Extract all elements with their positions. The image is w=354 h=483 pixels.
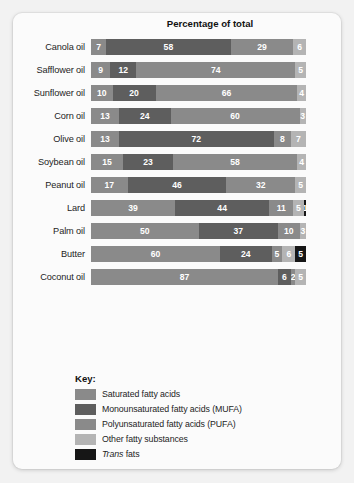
bar-row-label: Lard — [13, 203, 91, 213]
bar-segment: 13 — [91, 131, 119, 147]
bar-row: Soybean oil1523584 — [13, 154, 341, 170]
bar-row-label: Peanut oil — [13, 180, 91, 190]
legend-items: Saturated fatty acidsMonounsaturated fat… — [75, 388, 325, 460]
bar-track: 6024565 — [91, 246, 306, 262]
bar-track: 1324603 — [91, 108, 306, 124]
bar-row-label: Safflower oil — [13, 65, 91, 75]
bar-segment: 72 — [119, 131, 274, 147]
bar-segment: 4 — [297, 154, 306, 170]
bar-segment: 87 — [91, 269, 278, 285]
bar-segment: 74 — [136, 62, 295, 78]
bar-segment: 60 — [91, 246, 220, 262]
bar-track: 87625 — [91, 269, 306, 285]
bar-track: 137287 — [91, 131, 306, 147]
legend-swatch — [75, 404, 96, 415]
legend-item-label: Trans fats — [102, 449, 139, 459]
bar-segment: 15 — [91, 154, 123, 170]
bar-segment: 44 — [175, 200, 270, 216]
bar-row-label: Coconut oil — [13, 272, 91, 282]
bar-row-label: Corn oil — [13, 111, 91, 121]
legend-item: Monounsaturated fatty acids (MUFA) — [75, 403, 325, 415]
bar-segment: 9 — [91, 62, 110, 78]
legend-swatch — [75, 389, 96, 400]
bar-segment: 5 — [272, 246, 283, 262]
bar-segment: 66 — [156, 85, 298, 101]
legend-title: Key: — [75, 373, 325, 384]
bar-segment: 5 — [293, 200, 304, 216]
bar-segment: 37 — [199, 223, 279, 239]
bar-segment: 5 — [295, 62, 306, 78]
bar-segment: 12 — [110, 62, 136, 78]
bar-segment: 58 — [106, 39, 231, 55]
bar-row: Sunflower oil1020664 — [13, 85, 341, 101]
bar-row: Canola oil758296 — [13, 39, 341, 55]
bar-row: Butter6024565 — [13, 246, 341, 262]
legend-item: Other fatty substances — [75, 433, 325, 445]
chart-legend: Key: Saturated fatty acidsMonounsaturate… — [75, 373, 325, 463]
bar-row: Olive oil137287 — [13, 131, 341, 147]
chart-card: Canola oil758296Safflower oil912745Sunfl… — [13, 13, 341, 469]
bar-row: Palm oil5037103 — [13, 223, 341, 239]
bar-segment: 29 — [231, 39, 293, 55]
bar-segment: 5 — [295, 246, 306, 262]
bar-segment: 60 — [171, 108, 300, 124]
bar-segment: 13 — [91, 108, 119, 124]
bar-segment: 24 — [119, 108, 171, 124]
bar-track: 1523584 — [91, 154, 306, 170]
bar-segment: 3 — [300, 108, 306, 124]
legend-item: Polyunsaturated fatty acids (PUFA) — [75, 418, 325, 430]
bar-row-label: Butter — [13, 249, 91, 259]
bar-row: Safflower oil912745 — [13, 62, 341, 78]
bar-row-label: Canola oil — [13, 42, 91, 52]
bar-segment: 39 — [91, 200, 175, 216]
bar-track: 5037103 — [91, 223, 306, 239]
bar-row-label: Soybean oil — [13, 157, 91, 167]
stacked-bar-chart: Canola oil758296Safflower oil912745Sunfl… — [13, 39, 341, 292]
bar-segment: 7 — [91, 39, 106, 55]
bar-segment: 5 — [295, 177, 306, 193]
bar-row: Corn oil1324603 — [13, 108, 341, 124]
bar-row: Coconut oil87625 — [13, 269, 341, 285]
bar-track: 758296 — [91, 39, 306, 55]
bar-segment: 11 — [269, 200, 293, 216]
bar-track: 1020664 — [91, 85, 306, 101]
bar-row-label: Palm oil — [13, 226, 91, 236]
legend-swatch — [75, 419, 96, 430]
bar-segment: 10 — [278, 223, 300, 239]
bar-segment: 3 — [300, 223, 306, 239]
legend-item-label: Polyunsaturated fatty acids (PUFA) — [102, 419, 236, 429]
bar-segment: 6 — [282, 246, 295, 262]
bar-segment: 4 — [297, 85, 306, 101]
x-axis-label: Percentage of total — [13, 18, 341, 29]
bar-row-label: Sunflower oil — [13, 88, 91, 98]
bar-segment: 6 — [278, 269, 291, 285]
bar-row: Peanut oil1746325 — [13, 177, 341, 193]
legend-item-label: Monounsaturated fatty acids (MUFA) — [102, 404, 242, 414]
bar-segment: 17 — [91, 177, 128, 193]
bar-segment: 8 — [274, 131, 291, 147]
bar-segment: 1 — [304, 200, 306, 216]
bar-segment: 7 — [291, 131, 306, 147]
bar-row: Lard39441151 — [13, 200, 341, 216]
bar-track: 39441151 — [91, 200, 306, 216]
bar-segment: 50 — [91, 223, 199, 239]
legend-item: Saturated fatty acids — [75, 388, 325, 400]
bar-segment: 32 — [226, 177, 295, 193]
bar-segment: 58 — [173, 154, 298, 170]
bar-row-label: Olive oil — [13, 134, 91, 144]
legend-item: Trans fats — [75, 448, 325, 460]
bar-segment: 46 — [128, 177, 227, 193]
bar-segment: 10 — [91, 85, 113, 101]
bar-segment: 5 — [295, 269, 306, 285]
bar-track: 912745 — [91, 62, 306, 78]
legend-item-label: Saturated fatty acids — [102, 389, 180, 399]
bar-segment: 24 — [220, 246, 272, 262]
bar-segment: 20 — [113, 85, 156, 101]
bar-track: 1746325 — [91, 177, 306, 193]
legend-swatch — [75, 434, 96, 445]
legend-item-label: Other fatty substances — [102, 434, 188, 444]
bar-segment: 23 — [123, 154, 172, 170]
bar-segment: 6 — [293, 39, 306, 55]
legend-swatch — [75, 449, 96, 460]
